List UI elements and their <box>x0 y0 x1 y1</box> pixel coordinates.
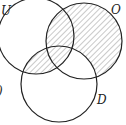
venn-diagram: U O D ) <box>0 0 126 125</box>
label-u: U <box>1 4 12 18</box>
label-d: D <box>96 93 107 107</box>
edge-fragment: ) <box>0 84 3 98</box>
label-o: O <box>111 3 121 17</box>
